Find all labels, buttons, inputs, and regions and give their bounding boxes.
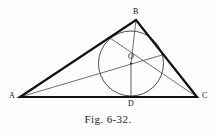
figure-caption: Fig. 6-32. — [0, 112, 216, 126]
vertex-label-a: A — [9, 92, 15, 100]
bisector-line-c — [110, 38, 197, 97]
triangle-abc — [20, 20, 197, 97]
incenter-point — [130, 62, 132, 64]
vertex-label-b: B — [133, 8, 138, 16]
incenter-label-o: O — [128, 53, 134, 61]
vertex-label-c: C — [202, 92, 207, 100]
figure-container: A B C O D Fig. 6-32. — [0, 0, 216, 134]
bisector-line-a — [20, 55, 162, 97]
tangent-point-label-d: D — [128, 100, 134, 108]
